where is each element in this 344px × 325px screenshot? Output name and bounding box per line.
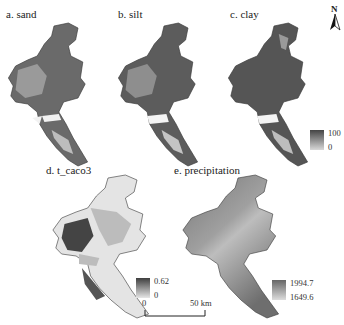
north-arrow-icon [328,4,342,32]
panel-sand: a. sand [0,0,112,160]
legend-clay: 100 0 [310,128,344,154]
legend-precipitation: 1994.7 1649.6 [272,278,332,304]
panel-silt: b. silt [112,0,224,160]
legend-clay-min: 0 [328,142,332,152]
map-sand [0,0,112,160]
legend-precipitation-max: 1994.7 [290,278,313,288]
legend-t-caco3-ramp [136,278,150,298]
scale-bar: 0 50 km [140,298,220,322]
legend-clay-max: 100 [328,128,341,138]
legend-clay-ramp [310,130,324,150]
panel-clay: c. clay N 100 0 [224,0,344,160]
legend-precipitation-min: 1649.6 [290,292,313,302]
legend-t-caco3-max: 0.62 [154,276,169,286]
legend-precipitation-ramp [272,280,286,300]
map-silt [112,0,224,160]
north-arrow: N [328,4,342,32]
scale-bar-line [140,298,220,322]
